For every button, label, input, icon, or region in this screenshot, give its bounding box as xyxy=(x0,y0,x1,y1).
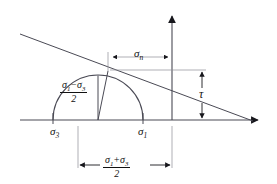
sigma-n-label: σn xyxy=(134,48,143,59)
mean-stress-fraction: σ1+σ3 2 xyxy=(103,155,130,179)
mohr-circle-figure: σn τ σ3 σ1 σ1−σ3 2 σ1+σ3 2 xyxy=(0,0,277,184)
sigma-3-label: σ3 xyxy=(50,126,59,137)
tau-label: τ xyxy=(199,88,203,100)
mohr-diagram-canvas xyxy=(0,0,277,184)
mean-numerator: σ1+σ3 xyxy=(103,155,130,168)
deviator-denominator: 2 xyxy=(60,93,87,105)
sigma-1-label: σ1 xyxy=(138,126,147,137)
deviator-stress-fraction: σ1−σ3 2 xyxy=(60,80,87,104)
circle-inclined-radius xyxy=(98,71,108,120)
mean-denominator: 2 xyxy=(103,168,130,180)
deviator-numerator: σ1−σ3 xyxy=(60,80,87,93)
